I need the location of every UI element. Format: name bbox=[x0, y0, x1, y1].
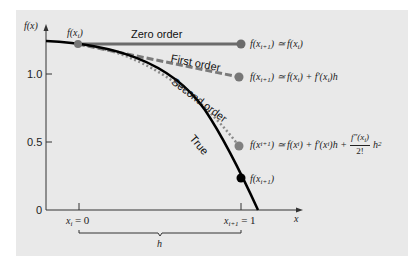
x-axis-arrow-icon bbox=[296, 208, 303, 213]
eq-part: )h bbox=[329, 71, 337, 82]
x-sub: i bbox=[70, 220, 72, 228]
y-axis-label: f(x) bbox=[24, 21, 38, 31]
f-close: ) bbox=[80, 27, 83, 38]
point-true bbox=[237, 174, 246, 183]
eq-sub: i+1 bbox=[261, 178, 271, 186]
fraction-denominator: 2! bbox=[356, 146, 364, 156]
h-label: h bbox=[157, 239, 162, 249]
y-tick-label-1: 1.0 bbox=[27, 69, 42, 80]
eq-part: f(x bbox=[250, 173, 261, 184]
first-order-equation: f(xi+1) ≃ f(xi) + f′(xi)h bbox=[250, 72, 338, 84]
f-text: f(x bbox=[67, 27, 78, 38]
eq-part: ) ≃ f(x bbox=[271, 71, 298, 82]
h-brace bbox=[79, 230, 241, 236]
true-point-label: f(xi+1) bbox=[250, 174, 274, 186]
eq-sub: i+1 bbox=[261, 43, 271, 51]
y-tick-label-0: 0 bbox=[36, 205, 42, 216]
x-axis-label: x bbox=[294, 214, 298, 224]
x-value: = 0 bbox=[75, 214, 89, 226]
eq-part: f″(x bbox=[351, 132, 364, 142]
point-first-order bbox=[235, 73, 244, 82]
y-axis-arrow-icon bbox=[44, 24, 49, 31]
fraction: f″(xi)2! bbox=[350, 133, 370, 156]
x-tick-label-xi1: xi+1 = 1 bbox=[224, 215, 256, 228]
eq-part: ) ≃ f(x bbox=[271, 38, 298, 49]
eq-part: ) bbox=[300, 38, 303, 49]
point-zero-order bbox=[237, 40, 246, 49]
eq-part: ) bbox=[271, 173, 274, 184]
true-curve bbox=[46, 41, 258, 210]
eq-part: ) ≃ f(x bbox=[271, 140, 298, 150]
eq-part: ) bbox=[366, 132, 369, 142]
y-tick-label-0-5: 0.5 bbox=[27, 137, 42, 148]
eq-part: )h + bbox=[329, 140, 347, 150]
fraction-numerator: f″(xi) bbox=[350, 133, 370, 146]
eq-part: ) + f′(x bbox=[300, 140, 328, 150]
eq-part: f(x bbox=[250, 38, 261, 49]
eq-part: f(x bbox=[250, 140, 261, 150]
second-order-equation: f(xi+1) ≃ f(xi) + f′(xi)h +f″(xi)2!h2 bbox=[250, 133, 382, 156]
point-f-xi bbox=[74, 40, 82, 48]
eq-part: ) + f′(x bbox=[300, 71, 328, 82]
x-sub: i+1 bbox=[228, 220, 238, 228]
eq-part: f(x bbox=[250, 71, 261, 82]
eq-sub: i+1 bbox=[261, 76, 271, 84]
f-xi-label: f(xi) bbox=[67, 28, 83, 40]
point-second-order bbox=[235, 142, 244, 151]
zero-order-equation: f(xi+1) ≃ f(xi) bbox=[250, 39, 303, 51]
x-value: = 1 bbox=[241, 214, 255, 226]
zero-order-label: Zero order bbox=[131, 29, 182, 40]
eq-sup: 2 bbox=[378, 141, 382, 148]
eq-sub: i+1 bbox=[261, 141, 271, 148]
x-tick-label-xi: xi = 0 bbox=[66, 215, 89, 228]
